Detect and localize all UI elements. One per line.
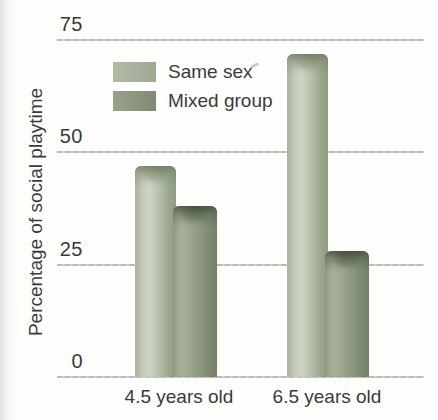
bar-same-sex-6.5-years-old	[287, 54, 328, 377]
legend-swatch-mixed-group	[113, 91, 156, 111]
y-tick-label-0: 0	[40, 348, 83, 374]
gridline-50	[57, 151, 424, 153]
bar-top-cap	[173, 206, 217, 231]
gridline-75	[57, 39, 424, 41]
y-tick-label-25: 25	[40, 236, 83, 262]
y-tick-label-50: 50	[40, 123, 83, 149]
legend-label-mixed-group: Mixed group	[168, 90, 273, 112]
y-tick-label-75: 75	[40, 11, 83, 37]
bar-top-cap	[287, 54, 328, 79]
x-axis-label-4.5-years-old: 4.5 years old	[125, 386, 234, 408]
bar-top-cap	[325, 251, 369, 276]
legend-swatch-same-sex	[113, 62, 156, 82]
bar-same-sex-4.5-years-old	[135, 166, 176, 377]
legend-item-same-sex: Same sex	[113, 62, 273, 82]
legend: Same sexMixed group	[113, 62, 273, 120]
x-axis-label-6.5-years-old: 6.5 years old	[273, 386, 382, 408]
bar-mixed-group-4.5-years-old	[173, 206, 217, 377]
bar-top-cap	[135, 166, 176, 191]
chart-figure: Percentage of social playtime 75502504.5…	[0, 0, 438, 420]
legend-label-same-sex: Same sex	[168, 61, 252, 83]
legend-item-mixed-group: Mixed group	[113, 91, 273, 111]
bar-mixed-group-6.5-years-old	[325, 251, 369, 377]
